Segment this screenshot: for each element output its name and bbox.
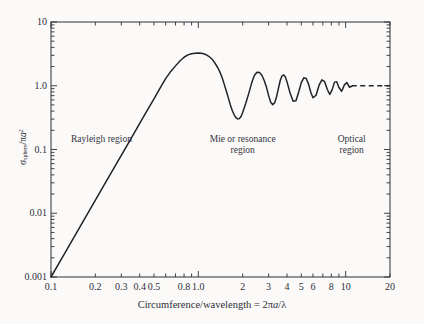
- mie-scattering-chart: 0.10.20.30.40.50.81.02345681020101.00.10…: [0, 0, 424, 324]
- x-axis-tick-label: 0.1: [31, 281, 71, 292]
- optical-region: Opticalregion: [297, 134, 407, 155]
- rayleigh-region: Rayleigh region: [46, 134, 156, 145]
- x-axis-tick-label: 20: [370, 281, 410, 292]
- y-axis-tick-label: 10: [5, 16, 47, 27]
- mie-region: Mie or resonanceregion: [188, 134, 298, 155]
- x-axis-tick-label: 10: [326, 281, 366, 292]
- x-axis-tick-label: 1.0: [178, 281, 218, 292]
- y-axis-title: σsphere/πa2: [18, 102, 28, 192]
- y-axis-tick-label: 0.001: [5, 271, 47, 282]
- plot-canvas: [0, 0, 424, 324]
- y-axis-tick-label: 1.0: [5, 80, 47, 91]
- scattering-curve: [51, 53, 352, 277]
- y-axis-tick-label: 0.01: [5, 207, 47, 218]
- x-axis-title: Circumference/wavelength = 2πa/λ: [0, 299, 424, 311]
